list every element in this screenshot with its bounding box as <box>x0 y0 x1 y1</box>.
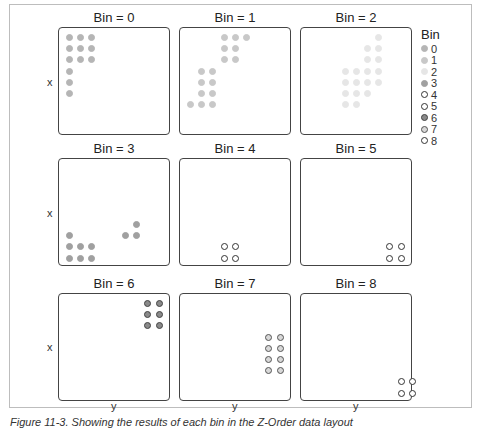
data-point <box>198 101 205 108</box>
data-point <box>221 243 228 250</box>
data-point <box>88 45 95 52</box>
legend-item-bin-6: 6 <box>421 112 440 124</box>
data-point <box>209 68 216 75</box>
facet-panel-bin-8 <box>300 293 412 401</box>
data-point <box>375 68 382 75</box>
legend-marker-icon <box>421 45 428 52</box>
panel-title: Bin = 6 <box>58 276 170 291</box>
data-point <box>133 232 140 239</box>
data-point <box>232 56 239 63</box>
legend-label: 7 <box>431 123 437 135</box>
panel-title: Bin = 5 <box>300 141 412 156</box>
data-point <box>77 56 84 63</box>
data-point <box>375 56 382 63</box>
y-axis-label-row-1: x <box>47 76 53 88</box>
data-point <box>243 34 250 41</box>
figure-caption: Figure 11-3. Showing the results of each… <box>10 416 353 428</box>
data-point <box>265 367 272 374</box>
data-point <box>88 56 95 63</box>
data-point <box>198 68 205 75</box>
data-point <box>409 390 416 397</box>
legend-marker-icon <box>421 91 428 98</box>
legend-item-bin-8: 8 <box>421 135 440 147</box>
legend-item-bin-2: 2 <box>421 66 440 78</box>
data-point <box>375 79 382 86</box>
data-point <box>277 334 284 341</box>
data-point <box>66 45 73 52</box>
data-point <box>88 34 95 41</box>
data-point <box>156 311 163 318</box>
data-point <box>221 34 228 41</box>
y-axis-label-row-3: x <box>47 341 53 353</box>
data-point <box>353 90 360 97</box>
legend-item-bin-5: 5 <box>421 101 440 113</box>
panel-title: Bin = 1 <box>179 10 291 25</box>
legend-marker-icon <box>421 114 428 121</box>
data-point <box>342 101 349 108</box>
facet-panel-bin-7 <box>179 293 291 401</box>
y-axis-label-row-2: x <box>47 207 53 219</box>
data-point <box>77 243 84 250</box>
data-point <box>66 255 73 262</box>
legend-item-bin-0: 0 <box>421 43 440 55</box>
data-point <box>66 56 73 63</box>
data-point <box>386 255 393 262</box>
data-point <box>133 221 140 228</box>
data-point <box>398 390 405 397</box>
data-point <box>66 243 73 250</box>
data-point <box>277 367 284 374</box>
data-point <box>77 45 84 52</box>
facet-panel-bin-1 <box>179 27 291 135</box>
x-axis-label-col-1: y <box>111 400 117 412</box>
data-point <box>386 243 393 250</box>
panel-title: Bin = 7 <box>179 276 291 291</box>
data-point <box>364 45 371 52</box>
data-point <box>156 322 163 329</box>
data-point <box>232 45 239 52</box>
data-point <box>144 322 151 329</box>
panel-title: Bin = 0 <box>58 10 170 25</box>
data-point <box>398 255 405 262</box>
data-point <box>88 243 95 250</box>
data-point <box>398 243 405 250</box>
data-point <box>265 334 272 341</box>
legend-label: 4 <box>431 89 437 101</box>
data-point <box>88 255 95 262</box>
data-point <box>277 356 284 363</box>
data-point <box>209 101 216 108</box>
x-axis-label-col-2: y <box>232 400 238 412</box>
legend-marker-icon <box>421 68 428 75</box>
data-point <box>209 79 216 86</box>
data-point <box>353 79 360 86</box>
data-point <box>66 90 73 97</box>
x-axis-label-col-3: y <box>353 400 359 412</box>
legend-label: 6 <box>431 112 437 124</box>
data-point <box>364 90 371 97</box>
data-point <box>364 56 371 63</box>
data-point <box>353 101 360 108</box>
data-point <box>232 34 239 41</box>
facet-panel-bin-0 <box>58 27 170 135</box>
data-point <box>375 34 382 41</box>
data-point <box>156 300 163 307</box>
data-point <box>221 255 228 262</box>
facet-panel-bin-3 <box>58 158 170 266</box>
data-point <box>398 378 405 385</box>
legend-label: 8 <box>431 135 437 147</box>
data-point <box>66 68 73 75</box>
legend-item-bin-3: 3 <box>421 78 440 90</box>
legend-marker-icon <box>421 57 428 64</box>
data-point <box>66 34 73 41</box>
facet-panel-bin-5 <box>300 158 412 266</box>
data-point <box>209 90 216 97</box>
facet-panel-bin-6 <box>58 293 170 401</box>
data-point <box>342 79 349 86</box>
legend-label: 0 <box>431 43 437 55</box>
legend-label: 1 <box>431 54 437 66</box>
panel-title: Bin = 4 <box>179 141 291 156</box>
data-point <box>122 232 129 239</box>
data-point <box>232 243 239 250</box>
panel-title: Bin = 3 <box>58 141 170 156</box>
legend-item-bin-7: 7 <box>421 124 440 136</box>
legend-marker-icon <box>421 126 428 133</box>
